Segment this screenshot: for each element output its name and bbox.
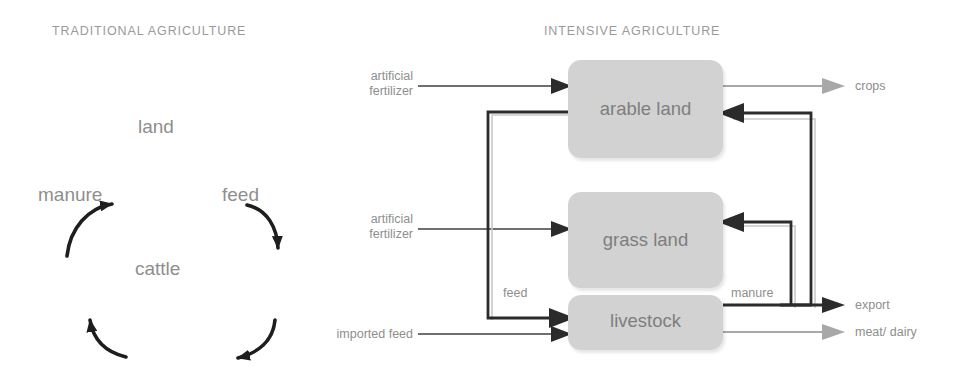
cycle-arrow-cattle-to-manure (90, 320, 126, 357)
input-label-fertilizer-grass-line2: fertilizer (288, 227, 413, 242)
output-label-export: export (855, 298, 890, 313)
output-arrow-crops (723, 78, 845, 94)
node-box-grass-land-label: grass land (568, 229, 723, 251)
cycle-arrow-land-to-feed (247, 205, 278, 248)
cycle-arrow-manure-to-land (67, 204, 112, 256)
cycle-node-cattle: cattle (135, 258, 180, 280)
input-arrow-imported-feed (418, 326, 572, 342)
cycle-node-feed: feed (222, 184, 259, 206)
connector-layer (0, 0, 969, 366)
input-label-fertilizer-grass: artificial fertilizer (288, 212, 413, 242)
cycle-node-manure: manure (38, 184, 102, 206)
flow-edge-feed (488, 112, 575, 328)
edge-label-manure: manure (731, 286, 773, 300)
output-label-meat-dairy: meat/ dairy (855, 325, 917, 340)
input-label-imported-feed: imported feed (268, 327, 413, 342)
input-label-fertilizer-arable-line2: fertilizer (288, 84, 413, 99)
node-box-livestock[interactable]: livestock (568, 295, 723, 350)
edge-label-feed: feed (503, 286, 527, 300)
input-label-imported-feed-line1: imported feed (268, 327, 413, 342)
output-arrow-meat-dairy (723, 324, 845, 340)
panel-title-traditional: TRADITIONAL AGRICULTURE (52, 24, 246, 38)
node-box-grass-land[interactable]: grass land (568, 192, 723, 288)
node-box-livestock-label: livestock (568, 310, 723, 332)
diagram-canvas: TRADITIONAL AGRICULTURE land feed cattle… (0, 0, 969, 366)
input-label-fertilizer-grass-line1: artificial (288, 212, 413, 227)
output-label-crops: crops (855, 79, 886, 94)
input-arrow-fertilizer-grass (418, 221, 572, 237)
input-label-fertilizer-arable-line1: artificial (288, 69, 413, 84)
cycle-node-land: land (138, 116, 174, 138)
input-label-fertilizer-arable: artificial fertilizer (288, 69, 413, 99)
input-arrow-fertilizer-arable (418, 78, 572, 94)
node-box-arable-land[interactable]: arable land (568, 60, 723, 158)
panel-title-intensive: INTENSIVE AGRICULTURE (544, 24, 720, 38)
flow-edge-manure (718, 103, 815, 308)
node-box-arable-land-label: arable land (568, 98, 723, 120)
